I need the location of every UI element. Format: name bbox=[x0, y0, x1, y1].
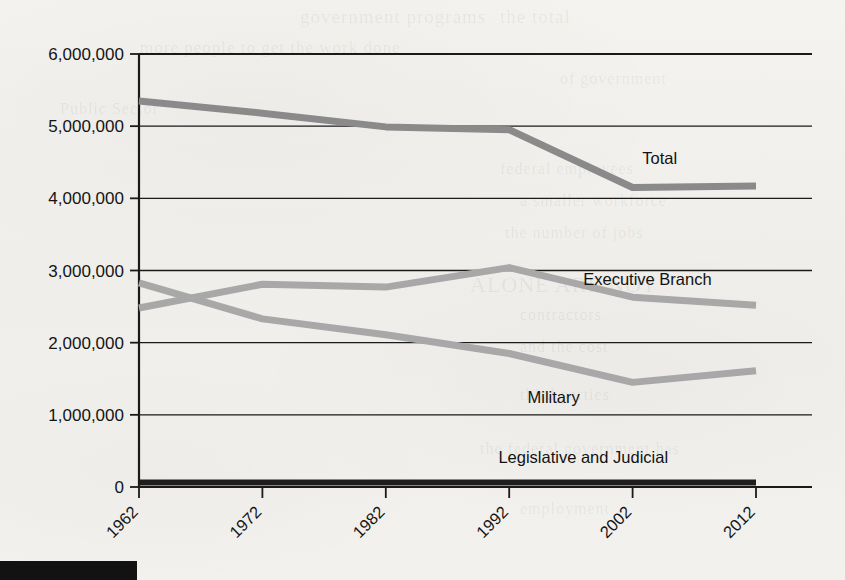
series-inline-labels: TotalExecutive BranchMilitaryLegislative… bbox=[498, 149, 711, 466]
series-label-military: Military bbox=[527, 388, 580, 406]
y-tick-label: 1,000,000 bbox=[48, 406, 124, 425]
y-axis-tick-marks bbox=[130, 54, 139, 487]
x-axis-tick-labels: 196219721982199220022012 bbox=[102, 502, 758, 541]
line-chart-federal-employment: 01,000,0002,000,0003,000,0004,000,0005,0… bbox=[0, 0, 845, 580]
y-axis-tick-labels: 01,000,0002,000,0003,000,0004,000,0005,0… bbox=[48, 45, 124, 497]
x-tick-label: 1972 bbox=[226, 502, 265, 541]
series-label-executive-branch: Executive Branch bbox=[583, 270, 711, 288]
x-tick-label: 2002 bbox=[596, 502, 635, 541]
y-tick-label: 3,000,000 bbox=[48, 262, 124, 281]
page-footer-bar bbox=[0, 561, 137, 580]
y-tick-label: 2,000,000 bbox=[48, 334, 124, 353]
chart-plot-area: 01,000,0002,000,0003,000,0004,000,0005,0… bbox=[0, 0, 845, 580]
y-tick-label: 6,000,000 bbox=[48, 45, 124, 64]
y-tick-label: 4,000,000 bbox=[48, 189, 124, 208]
x-tick-label: 1992 bbox=[473, 502, 512, 541]
x-tick-label: 1982 bbox=[349, 502, 388, 541]
y-tick-label: 5,000,000 bbox=[48, 117, 124, 136]
series-label-total: Total bbox=[642, 149, 677, 167]
x-axis-tick-marks bbox=[139, 487, 756, 498]
x-tick-label: 1962 bbox=[102, 502, 141, 541]
y-tick-label: 0 bbox=[115, 478, 124, 497]
series-label-legislative-and-judicial: Legislative and Judicial bbox=[498, 448, 668, 466]
x-tick-label: 2012 bbox=[719, 502, 758, 541]
series-line-total bbox=[139, 101, 756, 188]
